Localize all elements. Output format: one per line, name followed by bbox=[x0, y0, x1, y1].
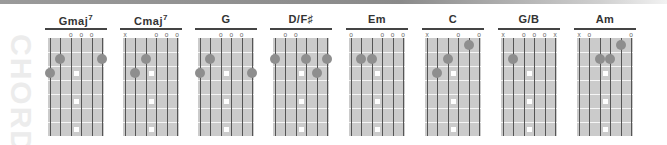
fret-line bbox=[501, 122, 557, 123]
string-line bbox=[555, 38, 556, 136]
string-line bbox=[221, 38, 222, 136]
finger-position-dot bbox=[97, 54, 107, 64]
chord-name: D/F♯ bbox=[270, 13, 332, 25]
chord-diagram: Gooo bbox=[195, 10, 257, 140]
chord-name-underline bbox=[422, 28, 484, 30]
string-line bbox=[81, 38, 82, 136]
string-line bbox=[393, 38, 394, 136]
chord-name-text: C bbox=[449, 13, 457, 25]
fret-line bbox=[273, 52, 329, 53]
fret-inlay-marker bbox=[527, 127, 532, 132]
fret-inlay-marker bbox=[74, 71, 79, 76]
fret-line bbox=[198, 108, 254, 109]
chord-diagram: G/Bxooox bbox=[498, 10, 560, 140]
fret-line bbox=[123, 52, 179, 53]
fret-line bbox=[123, 80, 179, 81]
fretboard bbox=[198, 38, 254, 136]
chord-name-underline bbox=[120, 28, 182, 30]
fret-line bbox=[349, 80, 405, 81]
string-line bbox=[135, 38, 136, 136]
string-line bbox=[361, 38, 362, 136]
string-line bbox=[210, 38, 211, 136]
finger-position-dot bbox=[130, 68, 140, 78]
chord-diagram: Amxoo bbox=[574, 10, 636, 140]
string-line bbox=[545, 38, 546, 136]
finger-position-dot bbox=[195, 68, 205, 78]
chord-name-text: G bbox=[221, 13, 230, 25]
fret-inlay-marker bbox=[527, 99, 532, 104]
fret-line bbox=[349, 52, 405, 53]
finger-position-dot bbox=[322, 54, 332, 64]
chord-name-underline bbox=[346, 28, 408, 30]
fret-line bbox=[48, 52, 104, 53]
chord-diagram: Cxoo bbox=[422, 10, 484, 140]
finger-position-dot bbox=[508, 54, 518, 64]
chord-name-underline bbox=[498, 28, 560, 30]
fret-line bbox=[48, 94, 104, 95]
fretboard bbox=[349, 38, 405, 136]
chord-name-underline bbox=[195, 28, 257, 30]
fret-line bbox=[425, 80, 481, 81]
fret-inlay-marker bbox=[451, 71, 456, 76]
fret-inlay-marker bbox=[375, 71, 380, 76]
fretboard bbox=[48, 38, 104, 136]
finger-position-dot bbox=[464, 40, 474, 50]
fret-line bbox=[501, 80, 557, 81]
fret-inlay-marker bbox=[224, 99, 229, 104]
string-line bbox=[231, 38, 232, 136]
fretboard bbox=[123, 38, 179, 136]
fret-line bbox=[198, 66, 254, 67]
string-line bbox=[600, 38, 601, 136]
string-line bbox=[125, 38, 126, 136]
fret-line bbox=[273, 122, 329, 123]
fretboard bbox=[577, 38, 633, 136]
string-line bbox=[621, 38, 622, 136]
chord-name: G bbox=[195, 13, 257, 25]
string-line bbox=[631, 38, 632, 136]
finger-position-dot bbox=[443, 54, 453, 64]
string-line bbox=[503, 38, 504, 136]
string-line bbox=[610, 38, 611, 136]
fret-line bbox=[273, 80, 329, 81]
fretboard bbox=[425, 38, 481, 136]
string-line bbox=[513, 38, 514, 136]
string-line bbox=[167, 38, 168, 136]
chord-name-underline bbox=[270, 28, 332, 30]
fret-line bbox=[123, 122, 179, 123]
chords-side-label: CHORDS bbox=[4, 34, 38, 144]
fretboard bbox=[501, 38, 557, 136]
string-line bbox=[448, 38, 449, 136]
chord-name: Am bbox=[574, 13, 636, 25]
chord-name: C bbox=[422, 13, 484, 25]
fret-inlay-marker bbox=[299, 71, 304, 76]
finger-position-dot bbox=[55, 54, 65, 64]
finger-position-dot bbox=[605, 54, 615, 64]
string-line bbox=[252, 38, 253, 136]
finger-position-dot bbox=[205, 54, 215, 64]
string-line bbox=[275, 38, 276, 136]
finger-position-dot bbox=[301, 54, 311, 64]
string-line bbox=[146, 38, 147, 136]
fret-line bbox=[577, 94, 633, 95]
string-line bbox=[579, 38, 580, 136]
fret-line bbox=[273, 108, 329, 109]
finger-position-dot bbox=[367, 54, 377, 64]
string-line bbox=[524, 38, 525, 136]
finger-position-dot bbox=[270, 54, 280, 64]
chord-name-text: Gmaj bbox=[59, 15, 89, 27]
string-line bbox=[50, 38, 51, 136]
finger-position-dot bbox=[616, 40, 626, 50]
fret-line bbox=[425, 94, 481, 95]
fret-inlay-marker bbox=[299, 99, 304, 104]
fret-line bbox=[123, 94, 179, 95]
chord-name-text: G/B bbox=[518, 13, 539, 25]
fret-inlay-marker bbox=[603, 99, 608, 104]
string-line bbox=[437, 38, 438, 136]
fret-line bbox=[123, 108, 179, 109]
chord-name-text: D/F♯ bbox=[288, 13, 313, 25]
chord-name-text: Am bbox=[596, 13, 615, 25]
string-line bbox=[71, 38, 72, 136]
chord-name-underline bbox=[45, 28, 107, 30]
fret-line bbox=[198, 52, 254, 53]
fret-line bbox=[577, 66, 633, 67]
